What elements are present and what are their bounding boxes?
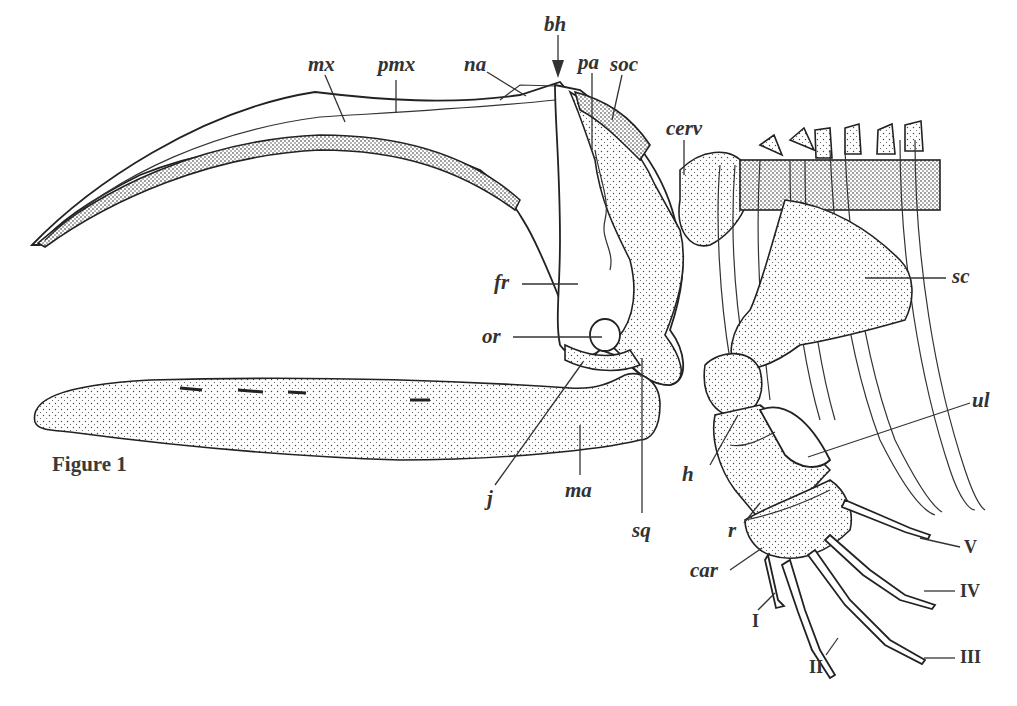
label-parietal: pa <box>578 52 599 73</box>
skeleton-illustration <box>0 0 1017 706</box>
label-scapula: sc <box>952 266 970 287</box>
bh-arrow-icon <box>552 60 564 78</box>
label-nasal: na <box>464 54 486 75</box>
label-maxilla: mx <box>308 54 335 75</box>
label-jugal: j <box>487 488 493 509</box>
label-digit-5: V <box>964 538 977 556</box>
label-digit-1: I <box>752 612 759 630</box>
whale-skeleton-figure: mx pmx na bh pa soc cerv sc fr or j ma s… <box>0 0 1017 706</box>
label-carpals: car <box>690 560 718 581</box>
label-frontal: fr <box>494 272 509 293</box>
label-premaxilla: pmx <box>378 54 415 75</box>
label-ulna: ul <box>972 390 990 411</box>
flipper <box>704 354 935 678</box>
label-mandible: ma <box>565 480 592 501</box>
mandible <box>34 374 660 460</box>
label-supraoccipital: soc <box>610 54 638 75</box>
label-humerus: h <box>682 464 694 485</box>
label-squamosal: sq <box>632 520 651 541</box>
label-blowhole: bh <box>544 14 566 35</box>
rostrum <box>32 82 575 300</box>
label-digit-2: II <box>809 658 823 676</box>
cranium <box>555 85 683 385</box>
label-radius: r <box>728 520 736 541</box>
label-digit-4: IV <box>960 582 980 600</box>
label-orbit: or <box>482 326 501 347</box>
figure-caption: Figure 1 <box>52 452 127 477</box>
label-cervical-vertebrae: cerv <box>666 118 702 139</box>
label-digit-3: III <box>960 648 981 666</box>
